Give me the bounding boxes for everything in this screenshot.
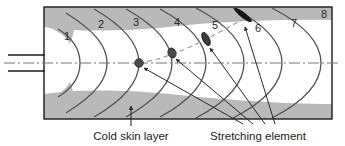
stretching-element-3 xyxy=(135,59,144,68)
cold-skin-layer-label: Cold skin layer xyxy=(93,130,169,142)
flow-front-number-1: 1 xyxy=(64,30,70,42)
figure-container: 1 2 3 4 5 6 7 8 Cold skin layer Stretchi… xyxy=(0,0,345,146)
flow-front-number-8: 8 xyxy=(321,8,327,20)
flow-front-number-5: 5 xyxy=(212,19,218,31)
flow-front-number-4: 4 xyxy=(174,16,180,28)
flow-front-number-2: 2 xyxy=(98,18,104,30)
flow-front-number-7: 7 xyxy=(291,17,297,29)
flow-front-diagram: 1 2 3 4 5 6 7 8 Cold skin layer Stretchi… xyxy=(0,0,345,146)
stretching-element-label: Stretching element xyxy=(210,130,307,142)
flow-front-number-6: 6 xyxy=(255,22,261,34)
flow-front-number-3: 3 xyxy=(133,16,139,28)
